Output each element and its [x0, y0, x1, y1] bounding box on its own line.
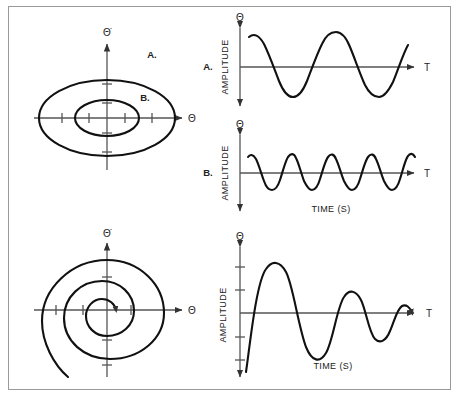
sine-curve-b: [248, 154, 415, 190]
orbit-inner-label: B.: [140, 92, 150, 103]
x-axis-label: T: [424, 168, 430, 179]
y-axis-label: Θ: [236, 12, 244, 23]
y-axis-label: Θ̇: [103, 27, 112, 38]
phase-portrait-undamped: Θ̇ Θ A. B.: [12, 10, 202, 195]
x-axis-label: T: [426, 308, 432, 319]
x-axis-label: Θ: [188, 113, 196, 124]
panel-label-a: A.: [203, 61, 213, 72]
y-axis-name: AMPLITUDE: [218, 287, 228, 342]
waveform-b: Θ B. AMPLITUDE T TIME (S): [196, 113, 454, 223]
y-axis-label: Θ: [236, 231, 244, 242]
damped-curve: [246, 263, 412, 372]
x-axis-name: TIME (S): [311, 204, 350, 214]
y-axis-label: Θ̇: [103, 228, 112, 239]
sine-curve-a: [249, 32, 408, 97]
y-axis-name: AMPLITUDE: [220, 145, 230, 200]
y-axis-name: AMPLITUDE: [220, 39, 230, 94]
phase-portrait-damped: Θ̇ Θ: [12, 225, 202, 390]
waveform-a: Θ A. AMPLITUDE T: [196, 6, 454, 114]
x-axis-label: T: [424, 62, 430, 73]
x-axis-label: Θ: [188, 305, 196, 316]
orbit-outer-label: A.: [147, 49, 157, 60]
y-axis-label: Θ: [236, 119, 244, 130]
waveform-damped: Θ AMPLITUDE T TIME (S): [196, 225, 454, 390]
figure-root: Θ̇ Θ A. B. Θ A. AMPLITUDE T: [0, 0, 463, 399]
panel-label-b: B.: [203, 167, 213, 178]
x-axis-name: TIME (S): [313, 361, 352, 371]
